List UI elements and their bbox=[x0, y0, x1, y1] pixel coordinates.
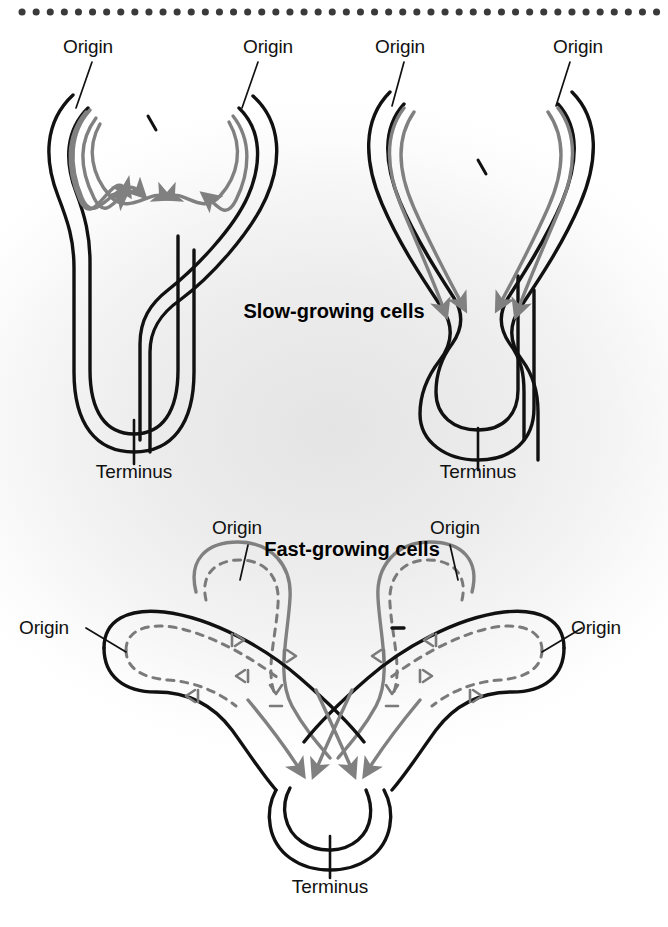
origin-leader-ul bbox=[240, 545, 248, 580]
parent-lobe-right-outer bbox=[304, 611, 564, 742]
terminus-label: Terminus bbox=[292, 876, 368, 898]
panel-fast bbox=[86, 542, 582, 878]
fork-arrow-fl bbox=[248, 700, 300, 770]
parent-lobe-right-lower bbox=[392, 648, 564, 790]
crossover-tick bbox=[148, 116, 156, 130]
origin-label: Origin bbox=[212, 517, 262, 539]
parent-loop-right-inner bbox=[140, 108, 258, 440]
crossover-tick bbox=[478, 160, 486, 174]
parent-lobe-left-lower bbox=[104, 648, 276, 790]
fork-arrow-fr bbox=[368, 700, 420, 770]
daughter-left-a bbox=[390, 108, 445, 310]
terminus-label: Terminus bbox=[440, 461, 516, 483]
origin-leader-right bbox=[242, 62, 258, 108]
origin-leader-left bbox=[392, 62, 404, 106]
daughter-cross-right bbox=[170, 122, 238, 204]
nested-fork-chevrons bbox=[186, 634, 482, 706]
nested-dashed-left bbox=[126, 626, 278, 678]
daughter-cross-left bbox=[92, 124, 164, 204]
parent-lobe-left-outer bbox=[104, 611, 364, 742]
origin-label: Origin bbox=[430, 517, 480, 539]
slow-growing-title: Slow-growing cells bbox=[243, 300, 424, 323]
parent-strand-inner bbox=[388, 104, 518, 430]
nested-dashed-left-lower bbox=[126, 650, 236, 706]
origin-leader-right bbox=[556, 62, 570, 106]
nested-dashed-right bbox=[390, 626, 542, 678]
origin-label: Origin bbox=[553, 36, 603, 58]
origin-label: Origin bbox=[571, 617, 621, 639]
daughter-fork-b bbox=[208, 116, 247, 210]
terminus-label: Terminus bbox=[96, 461, 172, 483]
origin-leader-left bbox=[76, 62, 92, 108]
replication-figure: Origin Origin Terminus Origin Origin Ter… bbox=[0, 0, 668, 927]
origin-leader-ur bbox=[450, 545, 458, 580]
panel-slow-left bbox=[49, 62, 277, 464]
parent-strand-outer bbox=[369, 92, 534, 460]
origin-label: Origin bbox=[63, 36, 113, 58]
parent-terminus-bulb-inner bbox=[285, 788, 371, 850]
origin-label: Origin bbox=[243, 36, 293, 58]
nested-dashed-right-lower bbox=[432, 650, 542, 706]
origin-label: Origin bbox=[375, 36, 425, 58]
fast-growing-title: Fast-growing cells bbox=[264, 538, 440, 561]
origin-label: Origin bbox=[19, 617, 69, 639]
daughter-right-a bbox=[518, 108, 573, 310]
panel-slow-right bbox=[369, 62, 594, 470]
parent-strand-inner bbox=[69, 108, 178, 434]
parent-loop-right-inner bbox=[501, 104, 574, 440]
